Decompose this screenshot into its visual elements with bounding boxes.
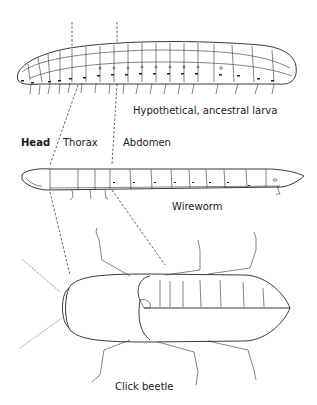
insect-segmentation-diagram: Hypothetical, ancestral larva Head Thora… <box>0 0 317 405</box>
label-wireworm: Wireworm <box>172 202 222 212</box>
label-thorax: Thorax <box>63 138 98 148</box>
label-abdomen: Abdomen <box>123 138 171 148</box>
click-beetle-drawing <box>20 228 290 385</box>
wireworm-drawing <box>22 169 304 200</box>
label-head: Head <box>21 138 50 148</box>
ancestral-larva-drawing <box>17 42 296 95</box>
diagram-drawing <box>0 0 317 405</box>
label-click-beetle: Click beetle <box>115 382 174 392</box>
label-ancestral-larva: Hypothetical, ancestral larva <box>133 106 277 116</box>
